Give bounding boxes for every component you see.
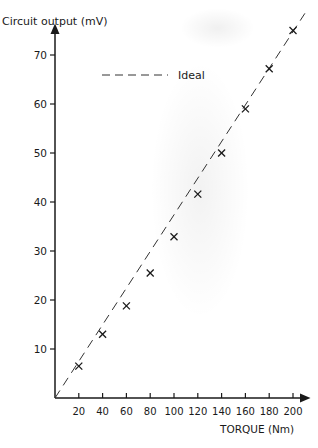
x-tick-label: 120 [188, 406, 207, 417]
x-tick-label: 40 [96, 406, 109, 417]
legend: Ideal [102, 69, 205, 82]
data-point-x-marker [218, 150, 225, 157]
data-point-x-marker [147, 270, 154, 277]
x-tick-label: 140 [212, 406, 231, 417]
legend-label-ideal: Ideal [178, 69, 205, 82]
y-tick-label: 40 [34, 196, 47, 208]
data-point-x-marker [171, 233, 178, 240]
x-tick-label: 100 [164, 406, 183, 417]
x-tick-label: 60 [120, 406, 133, 417]
y-tick-label: 50 [34, 147, 47, 159]
y-tick-label: 30 [34, 245, 47, 257]
y-tick-label: 10 [34, 343, 47, 355]
data-point-x-marker [123, 302, 130, 309]
y-ticks: 10203040506070 [34, 49, 55, 355]
x-tick-label: 80 [144, 406, 157, 417]
x-axis-label: TORQUE (Nm) [219, 423, 294, 435]
x-tick-label: 20 [72, 406, 85, 417]
y-axis-label: Circuit output (mV) [2, 15, 108, 28]
x-tick-label: 160 [236, 406, 255, 417]
x-ticks: 20406080100120140160180200 [72, 393, 302, 417]
x-tick-label: 200 [283, 406, 302, 417]
data-point-x-marker [75, 363, 82, 370]
chart: Circuit output (mV) TORQUE (Nm) 10203040… [0, 0, 318, 448]
data-point-x-marker [266, 65, 273, 72]
data-point-x-marker [290, 27, 297, 34]
y-tick-label: 70 [34, 49, 47, 61]
data-point-x-marker [242, 105, 249, 112]
data-point-x-marker [194, 191, 201, 198]
y-tick-label: 20 [34, 294, 47, 306]
x-tick-label: 180 [260, 406, 279, 417]
data-point-x-marker [99, 331, 106, 338]
y-tick-label: 60 [34, 98, 47, 110]
